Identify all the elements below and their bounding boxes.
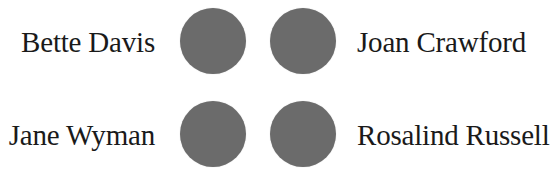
label-jane-wyman: Jane Wyman [9, 121, 155, 150]
dot-bottom-right [270, 101, 336, 167]
dot-top-right [270, 8, 336, 74]
dot-top-left [180, 8, 246, 74]
label-joan-crawford: Joan Crawford [357, 28, 526, 57]
dot-bottom-left [180, 101, 246, 167]
label-bette-davis: Bette Davis [21, 28, 155, 57]
label-rosalind-russell: Rosalind Russell [357, 121, 550, 150]
